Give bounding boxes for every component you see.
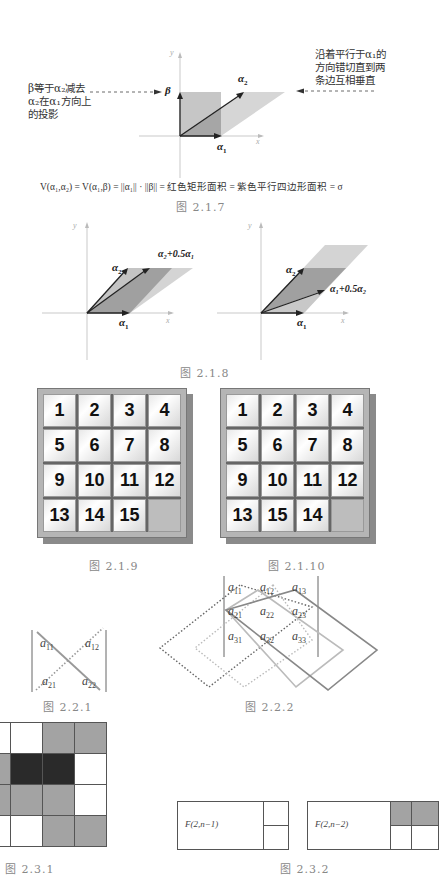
grid-cell-white xyxy=(11,816,43,847)
entry-subscript: 31 xyxy=(234,636,242,645)
grid-cell-gray xyxy=(0,754,11,785)
grid-cell-white xyxy=(0,816,11,847)
grid-cell-gray xyxy=(11,785,43,816)
tiling-label: F(2,n−1) xyxy=(185,819,218,829)
entry-subscript: 21 xyxy=(234,611,242,620)
entry-a21: a21 xyxy=(228,604,242,620)
grid-cell-white xyxy=(75,785,107,816)
entry-subscript: 12 xyxy=(266,587,274,596)
entry-subscript: 33 xyxy=(298,636,306,645)
grid-cell-white xyxy=(75,754,107,785)
figure-caption: 图 2.2.2 xyxy=(245,698,295,714)
grid-cell-white xyxy=(11,723,43,754)
tiling-box-n-minus-2: F(2,n−2) xyxy=(307,801,439,850)
figure-caption-2-3-1: 图 2.3.1 xyxy=(5,860,55,876)
entry-subscript: 22 xyxy=(266,611,274,620)
grid-cell-gray xyxy=(0,785,11,816)
grid-cell-gray xyxy=(43,816,75,847)
divider xyxy=(390,825,438,826)
entry-a31: a31 xyxy=(228,629,242,645)
grid-cell-white xyxy=(0,723,11,754)
entry-subscript: 13 xyxy=(298,587,306,596)
shaded-domino xyxy=(390,802,438,825)
grid-cell-gray xyxy=(75,816,107,847)
grid-cell-gray xyxy=(43,723,75,754)
entry-a12: a12 xyxy=(260,580,274,596)
entry-a22: a22 xyxy=(260,604,274,620)
entry-subscript: 32 xyxy=(266,636,274,645)
entry-a13: a13 xyxy=(292,580,306,596)
entry-a32: a32 xyxy=(260,629,274,645)
entry-a33: a33 xyxy=(292,629,306,645)
grid-cell-gray xyxy=(43,785,75,816)
determinant-3x3-diagram xyxy=(0,0,431,720)
entry-subscript: 23 xyxy=(298,611,306,620)
entry-subscript: 11 xyxy=(234,587,242,596)
divider xyxy=(263,825,288,826)
coloring-grid xyxy=(0,722,107,847)
tiling-label: F(2,n−2) xyxy=(315,819,348,829)
tiling-box-n-minus-1: F(2,n−1) xyxy=(177,801,289,850)
entry-a11: a11 xyxy=(228,580,242,596)
entry-a23: a23 xyxy=(292,604,306,620)
grid-cell-black xyxy=(43,754,75,785)
figure-caption-2-3-2: 图 2.3.2 xyxy=(280,860,330,876)
grid-cell-black xyxy=(11,754,43,785)
grid-cell-gray xyxy=(75,723,107,754)
